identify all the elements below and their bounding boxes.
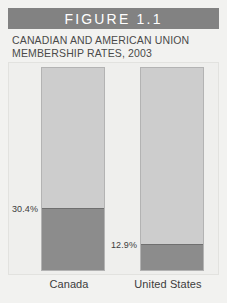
figure-title-line-2: MEMBERSHIP RATES, 2003 bbox=[12, 47, 217, 60]
figure-container: FIGURE 1.1 CANADIAN AND AMERICAN UNION M… bbox=[0, 0, 227, 303]
figure-frame: FIGURE 1.1 CANADIAN AND AMERICAN UNION M… bbox=[0, 0, 227, 303]
figure-number-label: FIGURE 1.1 bbox=[64, 12, 162, 26]
bar-canada[interactable] bbox=[41, 67, 105, 271]
category-label-united-states: United States bbox=[125, 278, 211, 291]
chart-plot-area: 30.4% 12.9% bbox=[8, 62, 219, 275]
figure-title: CANADIAN AND AMERICAN UNION MEMBERSHIP R… bbox=[12, 34, 217, 59]
bar-united-states-fill bbox=[141, 244, 203, 270]
figure-title-line-1: CANADIAN AND AMERICAN UNION bbox=[12, 34, 217, 47]
value-label-united-states: 12.9% bbox=[105, 240, 137, 250]
bar-canada-fill bbox=[42, 208, 104, 270]
category-label-canada: Canada bbox=[26, 278, 112, 291]
bars-layer: 30.4% 12.9% bbox=[9, 63, 218, 274]
bar-united-states[interactable] bbox=[140, 67, 204, 271]
value-label-canada: 30.4% bbox=[9, 204, 38, 214]
figure-banner: FIGURE 1.1 bbox=[8, 8, 219, 29]
